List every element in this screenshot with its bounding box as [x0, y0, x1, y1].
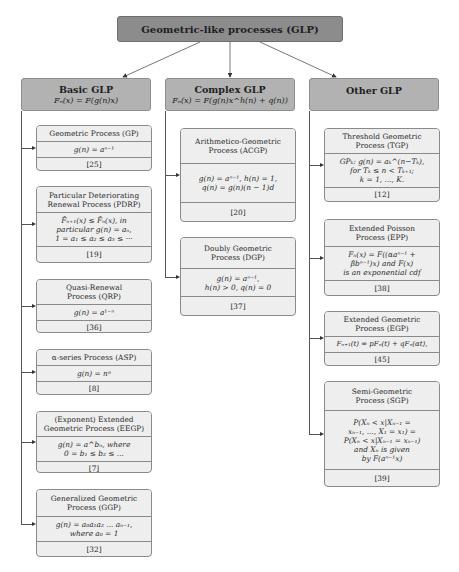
complex-trunk-line — [165, 111, 166, 277]
card-definition: g(n) = aⁿ⁻¹ — [37, 141, 151, 157]
card-definition: g(n) = a^bₙ, where 0 = b₁ ≤ b₂ ≤ ... — [37, 436, 151, 461]
root-node: Geometric-like processes (GLP) — [117, 16, 343, 42]
root-title: Geometric-like processes (GLP) — [141, 24, 318, 35]
card-ref: [19] — [37, 246, 151, 262]
card-definition: P(Xₙ < x|Xₙ₋₁ = xₙ₋₁, ..., X₁ = x₁) = P(… — [325, 410, 439, 469]
card-ref: [45] — [325, 352, 439, 366]
card-name: Geometric Process (GP) — [37, 126, 151, 141]
card-ggp: Generalized Geometric Process (GGP) g(n)… — [36, 489, 152, 557]
card-gp: Geometric Process (GP) g(n) = aⁿ⁻¹ [25] — [36, 125, 152, 171]
category-title: Basic GLP — [59, 84, 113, 95]
category-complex-glp: Complex GLP Fₙ(x) = F(g(n)x^h(n) + q(n)) — [165, 78, 295, 111]
card-ref: [37] — [181, 296, 295, 315]
card-sgp: Semi-Geometric Process (SGP) P(Xₙ < x|Xₙ… — [324, 381, 440, 487]
card-name: Doubly Geometric Process (DGP) — [181, 238, 295, 268]
card-ref: [7] — [37, 461, 151, 473]
card-ref: [8] — [37, 381, 151, 395]
card-name: Semi-Geometric Process (SGP) — [325, 382, 439, 410]
basic-trunk-line — [21, 111, 22, 524]
card-eegp: (Exponent) Extended Geometric Process (E… — [36, 411, 152, 473]
card-definition: GPₖ: g(n) = aₖ^(n−Tₖ), for Tₖ ≤ n < Tₖ₊₁… — [325, 153, 439, 187]
card-ref: [38] — [325, 280, 439, 295]
card-ref: [36] — [37, 320, 151, 333]
category-title: Other GLP — [346, 85, 402, 96]
card-name: α-series Process (ASP) — [37, 350, 151, 365]
card-qrp: Quasi-Renewal Process (QRP) g(n) = a¹⁻ⁿ … — [36, 279, 152, 333]
card-definition: F̄ₙ₊₁(x) ≤ F̄ₙ(x), in particular g(n) = … — [37, 212, 151, 246]
card-name: Threshold Geometric Process (TGP) — [325, 129, 439, 153]
category-formula: Fₙ(x) = F(g(n)x^h(n) + q(n)) — [172, 95, 288, 106]
card-name: Particular Deteriorating Renewal Process… — [37, 187, 151, 212]
card-definition: g(n) = aⁿ⁻¹, h(n) > 0, q(n) = 0 — [181, 268, 295, 296]
card-definition: g(n) = nᵅ — [37, 365, 151, 381]
card-ref: [32] — [37, 541, 151, 556]
card-asp: α-series Process (ASP) g(n) = nᵅ [8] — [36, 349, 152, 395]
card-name: Generalized Geometric Process (GGP) — [37, 490, 151, 516]
card-epp: Extended Poisson Process (EPP) Fₙ(x) = F… — [324, 219, 440, 296]
card-definition: Fₙ(x) = F((αaⁿ⁻¹ + βbⁿ⁻¹)x) and F(x) is … — [325, 246, 439, 280]
card-name: Arithmetico-Geometric Process (ACGP) — [181, 129, 295, 163]
category-other-glp: Other GLP — [309, 78, 439, 111]
card-definition: g(n) = a₀a₁a₂ ... aₙ₋₁, where a₀ = 1 — [37, 516, 151, 541]
card-ref: [25] — [37, 157, 151, 171]
card-egp: Extended Geometric Process (EGP) Fₙ₊₁(t)… — [324, 311, 440, 366]
category-basic-glp: Basic GLP Fₙ(x) = F(g(n)x) — [21, 78, 151, 111]
card-name: (Exponent) Extended Geometric Process (E… — [37, 412, 151, 436]
card-ref: [12] — [325, 187, 439, 201]
category-title: Complex GLP — [194, 84, 265, 95]
category-formula: Fₙ(x) = F(g(n)x) — [54, 95, 118, 106]
card-name: Extended Poisson Process (EPP) — [325, 220, 439, 246]
card-acgp: Arithmetico-Geometric Process (ACGP) g(n… — [180, 128, 296, 222]
card-definition: g(n) = aⁿ⁻¹, h(n) = 1, q(n) = g(n)(n − 1… — [181, 163, 295, 202]
card-tgp: Threshold Geometric Process (TGP) GPₖ: g… — [324, 128, 440, 202]
card-definition: g(n) = a¹⁻ⁿ — [37, 304, 151, 320]
card-name: Extended Geometric Process (EGP) — [325, 312, 439, 336]
card-name: Quasi-Renewal Process (QRP) — [37, 280, 151, 304]
card-pdrp: Particular Deteriorating Renewal Process… — [36, 186, 152, 263]
other-trunk-line — [309, 111, 310, 434]
card-ref: [39] — [325, 469, 439, 486]
card-definition: Fₙ₊₁(t) = pFₙ(t) + qFₙ(αt), — [325, 336, 439, 352]
card-dgp: Doubly Geometric Process (DGP) g(n) = aⁿ… — [180, 237, 296, 316]
card-ref: [20] — [181, 202, 295, 221]
